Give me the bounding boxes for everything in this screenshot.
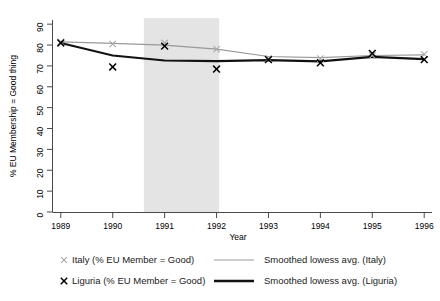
shaded-period-band <box>144 18 219 212</box>
x-tick-label: 1992 <box>207 221 226 231</box>
x-tick-label: 1990 <box>103 221 122 231</box>
legend-label-liguria-points: Liguria (% EU Member = Good) <box>72 275 205 286</box>
chart-container: 0102030405060708090 % EU Membership = Go… <box>0 0 440 301</box>
legend-label-italy-lowess: Smoothed lowess avg. (Italy) <box>264 254 386 265</box>
period-highlight-rect <box>144 18 219 212</box>
x-tick-label: 1995 <box>363 221 382 231</box>
x-tick-label: 1993 <box>259 221 278 231</box>
y-tick-label: 70 <box>35 64 45 74</box>
y-tick-label: 40 <box>35 127 45 137</box>
x-tick-label: 1996 <box>415 221 434 231</box>
y-axis-title: % EU Membership = Good thing <box>8 55 18 177</box>
y-tick-label: 20 <box>35 168 45 178</box>
legend-label-italy-points: Italy (% EU Member = Good) <box>72 254 194 265</box>
y-tick-label: 30 <box>35 147 45 157</box>
x-tick-label: 1994 <box>311 221 330 231</box>
x-tick-label: 1991 <box>155 221 174 231</box>
y-tick-label: 60 <box>35 85 45 95</box>
y-tick-label: 50 <box>35 106 45 116</box>
y-tick-label: 0 <box>35 212 45 217</box>
y-tick-label: 80 <box>35 43 45 53</box>
legend-label-liguria-lowess: Smoothed lowess avg. (Liguria) <box>264 275 397 286</box>
x-axis-title: Year <box>229 232 246 242</box>
y-tick-label: 10 <box>35 189 45 199</box>
x-tick-label: 1989 <box>51 221 70 231</box>
chart-svg: 0102030405060708090 % EU Membership = Go… <box>0 0 440 301</box>
y-tick-label: 90 <box>35 22 45 32</box>
